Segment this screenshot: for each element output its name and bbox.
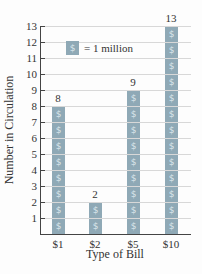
- dollar-bill-icon: $: [127, 139, 140, 154]
- legend: $ = 1 million: [66, 41, 133, 55]
- y-tick-label: 5: [17, 148, 37, 160]
- x-axis-label: Type of Bill: [40, 247, 190, 262]
- dollar-bill-icon: $: [165, 139, 178, 154]
- dollar-bill-icon: $: [52, 171, 65, 186]
- dollar-bill-icon: $: [89, 203, 102, 218]
- dollar-bill-icon: $: [165, 219, 178, 234]
- y-tick-label: 13: [17, 20, 37, 32]
- y-tick-label: 2: [17, 196, 37, 208]
- y-tick: [40, 58, 45, 59]
- dollar-bill-icon: $: [165, 155, 178, 170]
- dollar-bill-icon: $: [165, 59, 178, 74]
- y-tick: [40, 106, 45, 107]
- dollar-bill-icon: $: [89, 219, 102, 234]
- y-tick: [40, 170, 45, 171]
- y-tick-label: 1: [17, 212, 37, 224]
- y-tick-label: 4: [17, 164, 37, 176]
- y-tick-label: 9: [17, 84, 37, 96]
- y-tick: [40, 74, 45, 75]
- dollar-bill-icon: $: [52, 187, 65, 202]
- dollar-bill-icon: $: [127, 187, 140, 202]
- x-axis: [40, 234, 191, 235]
- y-tick-label: 7: [17, 116, 37, 128]
- dollar-bill-icon: $: [66, 41, 79, 55]
- y-tick: [40, 218, 45, 219]
- dollar-bill-icon: $: [165, 27, 178, 42]
- y-tick: [40, 186, 45, 187]
- y-tick: [40, 154, 45, 155]
- dollar-bill-icon: $: [127, 91, 140, 106]
- bar-value-label: 13: [159, 12, 183, 24]
- y-tick-label: 8: [17, 100, 37, 112]
- y-tick: [40, 138, 45, 139]
- dollar-bill-icon: $: [165, 43, 178, 58]
- dollar-bill-icon: $: [127, 171, 140, 186]
- y-tick: [40, 122, 45, 123]
- y-tick-label: 6: [17, 132, 37, 144]
- y-tick-label: 12: [17, 36, 37, 48]
- dollar-bill-icon: $: [127, 107, 140, 122]
- bar-value-label: 9: [121, 76, 145, 88]
- y-tick: [40, 202, 45, 203]
- dollar-bill-icon: $: [52, 203, 65, 218]
- y-tick: [40, 90, 45, 91]
- y-tick-label: 10: [17, 68, 37, 80]
- bar-value-label: 8: [46, 92, 70, 104]
- dollar-bill-icon: $: [127, 203, 140, 218]
- dollar-bill-icon: $: [165, 187, 178, 202]
- dollar-bill-icon: $: [165, 171, 178, 186]
- dollar-bill-icon: $: [52, 219, 65, 234]
- dollar-bill-icon: $: [52, 155, 65, 170]
- pictograph-chart: 12345678910111213 $$$$$$$$8$$2$$$$$$$$$9…: [0, 0, 202, 274]
- y-tick: [40, 42, 45, 43]
- dollar-bill-icon: $: [52, 139, 65, 154]
- legend-text: = 1 million: [84, 42, 133, 54]
- dollar-bill-icon: $: [52, 123, 65, 138]
- dollar-bill-icon: $: [165, 91, 178, 106]
- dollar-bill-icon: $: [165, 203, 178, 218]
- dollar-bill-icon: $: [127, 155, 140, 170]
- bar-value-label: 2: [83, 188, 107, 200]
- y-axis-label: Number in Circulation: [2, 60, 17, 200]
- y-tick-label: 11: [17, 52, 37, 64]
- dollar-bill-icon: $: [52, 107, 65, 122]
- y-tick-label: 3: [17, 180, 37, 192]
- dollar-bill-icon: $: [165, 75, 178, 90]
- dollar-bill-icon: $: [165, 107, 178, 122]
- dollar-bill-icon: $: [127, 123, 140, 138]
- dollar-bill-icon: $: [165, 123, 178, 138]
- dollar-bill-icon: $: [127, 219, 140, 234]
- y-tick: [40, 26, 45, 27]
